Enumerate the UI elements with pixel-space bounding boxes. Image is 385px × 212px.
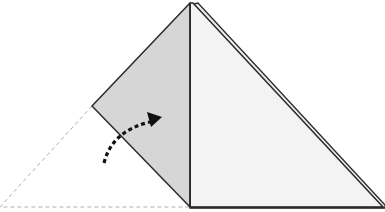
folded-flap (92, 3, 190, 207)
diagram-canvas (0, 0, 385, 212)
front-triangle (190, 3, 383, 207)
origami-diagram: Origami fold step: fold left flap over t… (0, 0, 385, 212)
